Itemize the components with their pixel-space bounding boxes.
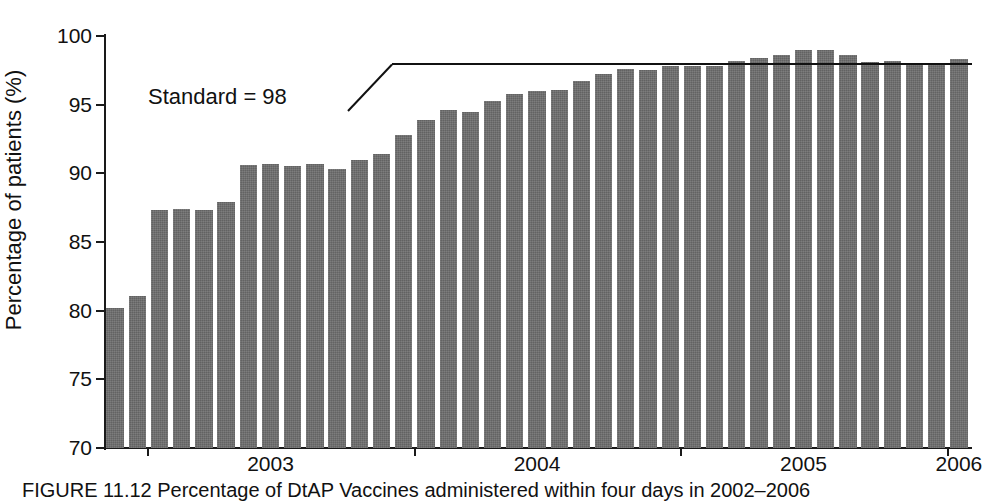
y-axis-tick-label: 80	[42, 300, 92, 321]
bar	[528, 91, 545, 448]
bar	[573, 81, 590, 448]
bar	[817, 50, 834, 448]
y-axis-tick-label: 90	[42, 162, 92, 183]
bar	[639, 70, 656, 448]
figure-caption: FIGURE 11.12 Percentage of DtAP Vaccines…	[22, 478, 962, 502]
y-axis-tick-label: 85	[42, 231, 92, 252]
bar	[950, 59, 967, 448]
bar	[328, 169, 345, 448]
bar	[484, 101, 501, 448]
bar	[684, 66, 701, 448]
bar	[373, 154, 390, 448]
bar	[706, 66, 723, 448]
bar	[506, 94, 523, 448]
x-axis-year-label: 2004	[497, 452, 577, 475]
x-axis-year-label: 2005	[763, 452, 843, 475]
bar	[861, 62, 878, 448]
bar	[551, 90, 568, 448]
bar	[462, 112, 479, 448]
x-axis-tick	[947, 448, 949, 456]
y-axis-tick-label: 75	[42, 368, 92, 389]
bar	[195, 210, 212, 448]
bar	[284, 166, 301, 448]
bar	[417, 120, 434, 448]
standard-annotation-label: Standard = 98	[148, 85, 287, 109]
bar	[440, 110, 457, 448]
x-axis-tick	[147, 448, 149, 456]
x-axis-year-label: 2003	[231, 452, 311, 475]
bar	[750, 58, 767, 448]
bar	[151, 210, 168, 448]
y-axis-tick-label: 100	[42, 25, 92, 46]
bar	[306, 164, 323, 448]
bar	[773, 55, 790, 448]
bar	[795, 50, 812, 448]
bar	[173, 209, 190, 448]
bar	[906, 65, 923, 448]
bar	[728, 61, 745, 448]
bar	[617, 69, 634, 448]
bar	[106, 308, 123, 448]
bar	[262, 164, 279, 448]
standard-reference-line	[392, 63, 972, 65]
y-axis-tick-label: 95	[42, 94, 92, 115]
bar	[595, 74, 612, 448]
y-axis-tick-label: 70	[42, 437, 92, 458]
x-axis-tick	[680, 448, 682, 456]
bar	[129, 296, 146, 448]
bar	[839, 55, 856, 448]
bar	[217, 202, 234, 448]
y-axis-title: Percentage of patients (%)	[2, 0, 26, 400]
bar	[351, 160, 368, 448]
bar	[884, 61, 901, 448]
bar	[662, 66, 679, 448]
bar	[395, 135, 412, 448]
bar	[928, 65, 945, 448]
x-axis-tick	[414, 448, 416, 456]
x-axis-year-label: 2006	[919, 452, 982, 475]
bar	[240, 165, 257, 448]
